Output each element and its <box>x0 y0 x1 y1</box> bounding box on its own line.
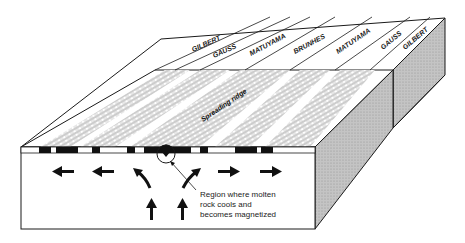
annotation-line-1: Region where molten <box>200 190 276 199</box>
annotation-line-3: becomes magnetized <box>200 210 276 219</box>
annotation-line-2: rock cools and <box>200 200 252 209</box>
seafloor-spreading-diagram: GILBERT GAUSS MATUYAMA BRUNHES MATUYAMA … <box>0 0 465 243</box>
